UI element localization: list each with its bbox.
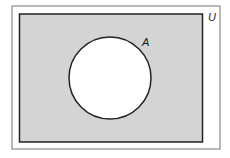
universe-label: U [208, 11, 216, 23]
set-a-label: A [141, 36, 149, 48]
set-a-circle [69, 37, 151, 119]
venn-diagram: A U [0, 0, 230, 158]
